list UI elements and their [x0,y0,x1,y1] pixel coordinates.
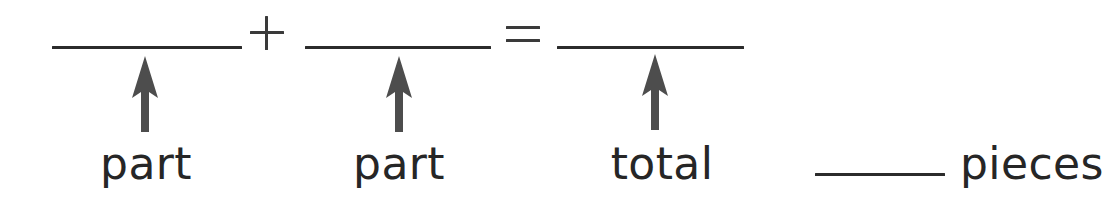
label-pieces-unit: pieces [960,142,1104,186]
answer-blank-addend-1[interactable] [52,46,242,49]
answer-blank-sum[interactable] [557,46,744,49]
up-arrow-icon-total [638,54,672,130]
label-part-2: part [353,142,445,186]
label-part-1: part [100,142,192,186]
label-total: total [611,142,714,186]
answer-blank-pieces[interactable] [815,173,945,176]
up-arrow-icon-part-2 [382,56,416,132]
answer-blank-addend-2[interactable] [305,46,491,49]
plus-sign-icon [250,16,284,50]
up-arrow-icon-part-1 [128,56,162,132]
equals-sign-icon [506,26,540,42]
worksheet-canvas: part part total pieces [0,0,1119,204]
